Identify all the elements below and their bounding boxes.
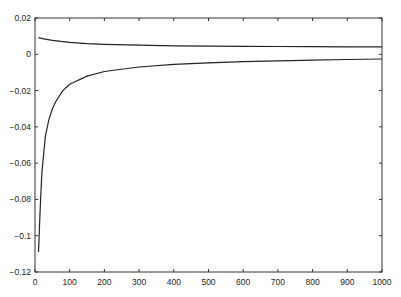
plot-lines bbox=[39, 38, 383, 252]
x-tick-label: 500 bbox=[201, 277, 215, 287]
y-tick-label: −0.08 bbox=[9, 194, 31, 204]
axes-frame bbox=[35, 18, 382, 272]
x-tick-label: 1000 bbox=[373, 277, 392, 287]
y-tick-label: −0.1 bbox=[14, 231, 31, 241]
x-tick-label: 200 bbox=[97, 277, 111, 287]
series-line-upper bbox=[39, 38, 383, 47]
x-tick-label: 700 bbox=[271, 277, 285, 287]
x-tick-label: 600 bbox=[236, 277, 250, 287]
y-tick-label: −0.04 bbox=[9, 122, 31, 132]
y-tick-label: −0.12 bbox=[9, 267, 31, 277]
y-tick-label: −0.06 bbox=[9, 158, 31, 168]
series-line-lower bbox=[39, 59, 383, 252]
x-tick-label: 100 bbox=[63, 277, 77, 287]
y-tick-label: 0.02 bbox=[14, 13, 31, 23]
x-tick-label: 0 bbox=[33, 277, 38, 287]
y-tick-label: 0 bbox=[26, 49, 31, 59]
y-tick-label: −0.02 bbox=[9, 86, 31, 96]
x-tick-label: 400 bbox=[167, 277, 181, 287]
x-tick-label: 900 bbox=[340, 277, 354, 287]
x-tick-label: 300 bbox=[132, 277, 146, 287]
x-tick-label: 800 bbox=[306, 277, 320, 287]
line-chart: 010020030040050060070080090010000.020−0.… bbox=[0, 0, 401, 297]
axes: 010020030040050060070080090010000.020−0.… bbox=[9, 13, 391, 287]
